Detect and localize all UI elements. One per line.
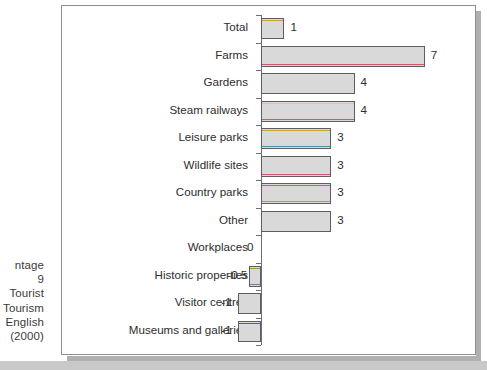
bar [249,266,261,287]
bar-category-label: Workplaces [62,240,248,253]
bar-row: Gardens4 [62,70,477,97]
bar-row: Country parks3 [62,180,477,207]
bar-category-label: Leisure parks [62,130,248,143]
bar [261,73,355,94]
bar-value-label: 4 [361,75,367,88]
bar-value-label: 1 [290,20,296,33]
caption-line: Tourism [0,301,44,315]
bar-value-label: 3 [337,158,343,171]
caption-line: 9 [0,272,44,286]
bar-value-label: -1 [216,295,232,308]
bar-accent-top [250,268,260,269]
bar-chart-plot: Total1Farms7Gardens4Steam railways4Leisu… [62,6,477,356]
bar-accent-top [262,130,330,131]
bar-value-label: 0 [247,240,253,253]
bar-category-label: Farms [62,48,248,61]
caption-line: (2000) [0,329,44,343]
bar-row: Steam railways4 [62,98,477,125]
bar-accent-top [239,323,260,324]
bar [261,18,284,39]
bar-accent-bottom [262,119,354,120]
bar [261,211,331,232]
bar [261,128,331,149]
caption-line: ntage [0,258,44,272]
bar-row: Leisure parks3 [62,125,477,152]
bar [261,156,331,177]
bar-category-label: Wildlife sites [62,158,248,171]
bar-value-label: -1 [216,323,232,336]
bar-accent-top [262,103,354,104]
bar-category-label: Total [62,20,248,33]
bar-category-label: Gardens [62,75,248,88]
chart-frame: Total1Farms7Gardens4Steam railways4Leisu… [61,5,476,355]
bar-accent-top [262,185,330,186]
bar [238,321,261,342]
caption-line: Tourist [0,286,44,300]
bar-row: Wildlife sites3 [62,153,477,180]
bar-value-label: 3 [337,213,343,226]
bar-accent-bottom [250,284,260,285]
bar-row: Museums and galleries-1 [62,318,477,345]
bar-category-label: Country parks [62,185,248,198]
bar [261,46,425,67]
axis-tick [256,345,261,346]
bar-accent-bottom [262,64,424,65]
bar [238,293,261,314]
bar-value-label: 3 [337,185,343,198]
caption-line: English [0,315,44,329]
bar-accent-bottom [262,201,330,202]
bar-value-label: -0.5 [227,268,243,281]
bar-accent-bottom [262,174,330,175]
bar-row: Workplaces0 [62,235,477,262]
bar-row: Farms7 [62,43,477,70]
bar-category-label: Other [62,213,248,226]
bar [261,183,331,204]
bar-row: Visitor centres-1 [62,290,477,317]
bar-accent-bottom [262,146,330,147]
bar-value-label: 7 [431,48,437,61]
bar-category-label: Steam railways [62,103,248,116]
bar-row: Other3 [62,208,477,235]
bar [261,101,355,122]
bar-row: Total1 [62,15,477,42]
bar-accent-top [262,20,283,21]
bar-value-label: 3 [337,130,343,143]
bar-row: Historic properties-0.5 [62,263,477,290]
bar-value-label: 4 [361,103,367,116]
page-bottom-band [0,361,487,370]
figure-source-caption: ntage 9 Tourist Tourism English (2000) [0,258,44,343]
bar-category-label: Historic properties [62,268,248,281]
